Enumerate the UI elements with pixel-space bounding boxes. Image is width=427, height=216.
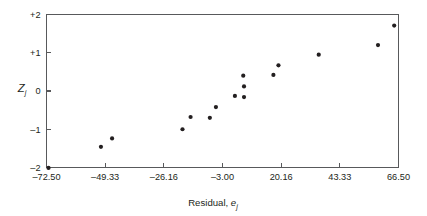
normal-probability-plot: –72.50–49.33–26.16–3.0020.1643.3366.50 +…	[0, 0, 427, 216]
plot-frame	[47, 15, 399, 168]
x-tick-label: –72.50	[32, 172, 60, 182]
x-tick-label: 20.16	[270, 172, 293, 182]
data-point	[317, 53, 321, 57]
y-axis-tick-labels: +2+10–1–2	[30, 10, 40, 173]
data-point	[241, 74, 245, 78]
y-tick-label: –2	[30, 163, 40, 173]
data-point	[392, 23, 396, 27]
data-point	[188, 115, 192, 119]
data-point-series	[46, 23, 396, 169]
y-tick-label: –1	[30, 125, 40, 135]
x-axis-tick-labels: –72.50–49.33–26.16–3.0020.1643.3366.50	[32, 172, 410, 182]
data-point	[214, 105, 218, 109]
data-point	[99, 145, 103, 149]
y-axis-ticks	[47, 15, 52, 168]
data-point	[242, 84, 246, 88]
data-point	[276, 63, 280, 67]
data-point	[208, 116, 212, 120]
y-tick-label: 0	[35, 86, 40, 96]
data-point	[233, 94, 237, 98]
data-point	[242, 95, 246, 99]
x-tick-label: –3.00	[211, 172, 234, 182]
x-axis-ticks	[47, 163, 399, 168]
y-tick-label: +1	[30, 48, 40, 58]
data-point	[180, 127, 184, 131]
x-axis-title: Residual, ej	[188, 197, 238, 211]
y-tick-label: +2	[30, 10, 40, 20]
x-tick-label: 43.33	[328, 172, 351, 182]
data-point	[271, 73, 275, 77]
y-axis-title: Zj	[17, 82, 27, 97]
data-point	[110, 136, 114, 140]
data-point	[376, 43, 380, 47]
x-tick-label: –26.16	[150, 172, 178, 182]
x-tick-label: 66.50	[387, 172, 410, 182]
plot-svg: –72.50–49.33–26.16–3.0020.1643.3366.50 +…	[0, 0, 427, 216]
data-point	[46, 166, 50, 170]
x-tick-label: –49.33	[91, 172, 119, 182]
